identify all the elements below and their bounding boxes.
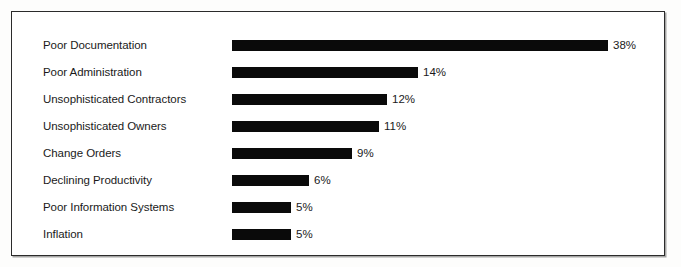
bar-fill <box>232 148 352 159</box>
bar-fill <box>232 40 608 51</box>
bar-fill <box>232 202 291 213</box>
bar-fill <box>232 94 387 105</box>
bar-category-label: Unsophisticated Contractors <box>43 88 186 110</box>
bar-category-label: Declining Productivity <box>43 169 152 191</box>
bar-row: Inflation5% <box>12 223 664 245</box>
bar-value-label: 12% <box>392 88 415 110</box>
bar-row: Poor Information Systems5% <box>12 196 664 218</box>
bar-value-label: 9% <box>357 142 374 164</box>
bar-value-label: 38% <box>613 34 636 56</box>
bar-value-label: 11% <box>384 115 406 137</box>
bar-value-label: 14% <box>423 61 446 83</box>
bar-value-label: 5% <box>296 196 313 218</box>
bar-row: Unsophisticated Contractors12% <box>12 88 664 110</box>
bar-value-label: 6% <box>314 169 331 191</box>
bar-category-label: Change Orders <box>43 142 121 164</box>
bar-row: Poor Documentation38% <box>12 34 664 56</box>
bar-fill <box>232 67 418 78</box>
bar-row: Poor Administration14% <box>12 61 664 83</box>
chart-frame-border: Poor Documentation38%Poor Administration… <box>11 11 665 256</box>
bar-value-label: 5% <box>296 223 313 245</box>
chart-figure: Poor Documentation38%Poor Administration… <box>0 0 681 267</box>
bar-chart-plot-area: Poor Documentation38%Poor Administration… <box>12 12 664 255</box>
bar-category-label: Unsophisticated Owners <box>43 115 167 137</box>
bar-row: Declining Productivity6% <box>12 169 664 191</box>
bar-fill <box>232 175 309 186</box>
bar-category-label: Poor Information Systems <box>43 196 174 218</box>
bar-fill <box>232 121 379 132</box>
bar-category-label: Poor Administration <box>43 61 142 83</box>
bar-row: Change Orders9% <box>12 142 664 164</box>
bar-category-label: Inflation <box>43 223 83 245</box>
bar-category-label: Poor Documentation <box>43 34 147 56</box>
bar-row: Unsophisticated Owners11% <box>12 115 664 137</box>
bar-fill <box>232 229 291 240</box>
